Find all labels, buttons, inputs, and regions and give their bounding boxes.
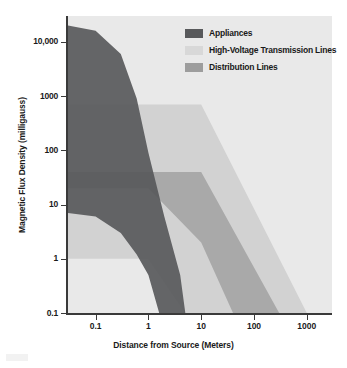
x-tick-mark — [307, 315, 308, 320]
y-tick-mark — [61, 150, 67, 151]
y-tick-label: 10,000 — [0, 36, 58, 46]
x-tick-mark — [254, 315, 255, 320]
x-tick-mark — [96, 315, 97, 320]
legend-label: High-Voltage Transmission Lines — [209, 45, 336, 55]
x-axis-title: Distance from Source (Meters) — [0, 340, 347, 350]
y-axis-title: Magnetic Flux Density (milligauss) — [17, 65, 27, 265]
legend-item: High-Voltage Transmission Lines — [185, 43, 336, 57]
x-axis-line — [66, 313, 332, 315]
y-tick-label: 10 — [0, 199, 58, 209]
legend-label: Appliances — [209, 28, 252, 38]
x-tick-label: 1 — [123, 321, 173, 331]
y-tick-label: 0.1 — [0, 308, 58, 318]
legend-item: Distribution Lines — [185, 60, 336, 74]
chart-figure: 10,00010001001010.1 0.11101001000 Distan… — [0, 0, 347, 368]
y-tick-mark — [61, 259, 67, 260]
legend-swatch-icon — [185, 46, 203, 55]
x-tick-label: 1000 — [282, 321, 332, 331]
y-tick-label: 1000 — [0, 91, 58, 101]
y-tick-mark — [61, 96, 67, 97]
y-tick-mark — [61, 205, 67, 206]
y-axis-line — [66, 16, 68, 315]
legend-label: Distribution Lines — [209, 62, 278, 72]
y-tick-label: 100 — [0, 145, 58, 155]
legend-item: Appliances — [185, 26, 336, 40]
x-tick-label: 10 — [176, 321, 226, 331]
x-tick-mark — [201, 315, 202, 320]
scan-artifact — [6, 354, 28, 361]
x-tick-label: 0.1 — [71, 321, 121, 331]
y-tick-mark — [61, 313, 67, 314]
legend: AppliancesHigh-Voltage Transmission Line… — [185, 26, 336, 77]
x-tick-label: 100 — [229, 321, 279, 331]
legend-swatch-icon — [185, 63, 203, 72]
y-tick-mark — [61, 42, 67, 43]
y-tick-label: 1 — [0, 253, 58, 263]
x-tick-mark — [148, 315, 149, 320]
legend-swatch-icon — [185, 29, 203, 38]
